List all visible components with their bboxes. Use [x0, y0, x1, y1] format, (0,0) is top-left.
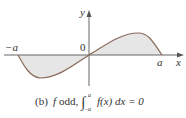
y-axis-arrow-icon: [87, 10, 92, 17]
shaded-area-negative: [18, 55, 89, 78]
integral-lower-limit: −a: [84, 106, 91, 112]
y-axis-label: y: [79, 6, 85, 18]
integrand: f(x) dx = 0: [97, 95, 144, 108]
integral-upper-limit: a: [88, 92, 91, 98]
caption-prefix: (b): [35, 95, 48, 108]
caption-f: f: [53, 95, 58, 107]
x-axis-label: x: [175, 56, 181, 68]
origin-label: 0: [80, 41, 86, 53]
a-label: a: [157, 56, 163, 68]
caption-text: odd,: [59, 95, 79, 107]
shaded-area-positive: [89, 33, 162, 55]
minus-a-label: −a: [5, 41, 18, 53]
odd-function-diagram: y x 0 −a a (b) f odd, ∫ a −a f(x) dx = 0: [0, 0, 186, 118]
